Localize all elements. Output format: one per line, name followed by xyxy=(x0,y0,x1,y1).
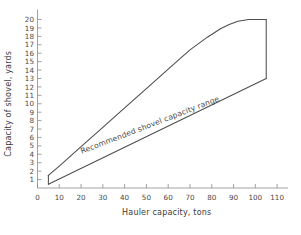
y-tick-label-17: 17 xyxy=(25,40,34,49)
y-tick-label-18: 18 xyxy=(25,32,35,41)
y-tick-label-4: 4 xyxy=(29,150,34,159)
x-tick-label-50: 50 xyxy=(142,193,152,202)
y-axis-title: Capacity of shovel, yards xyxy=(4,51,13,157)
y-tick-label-19: 19 xyxy=(25,24,35,33)
x-tick-label-0: 0 xyxy=(35,193,40,202)
y-tick-label-14: 14 xyxy=(25,66,35,75)
y-tick-label-15: 15 xyxy=(25,57,34,66)
x-tick-label-80: 80 xyxy=(207,193,217,202)
y-axis-tick-labels: 1234567891011121314151617181920 xyxy=(25,15,35,184)
chart-annotations: Recommended shovel capacity range xyxy=(79,94,221,156)
y-tick-label-5: 5 xyxy=(29,141,34,150)
chart-container: 1234567891011121314151617181920 01020304… xyxy=(0,0,301,235)
x-axis-ticks xyxy=(38,184,278,188)
curve-lower-bound xyxy=(48,78,266,184)
y-tick-label-3: 3 xyxy=(29,158,34,167)
y-tick-label-9: 9 xyxy=(29,108,34,117)
y-tick-label-6: 6 xyxy=(29,133,34,142)
annotation-recommended-range: Recommended shovel capacity range xyxy=(79,94,221,156)
x-axis-tick-labels: 0102030405060708090100110 xyxy=(35,193,284,202)
y-tick-label-12: 12 xyxy=(25,83,34,92)
y-tick-label-8: 8 xyxy=(29,116,34,125)
shovel-capacity-chart: 1234567891011121314151617181920 01020304… xyxy=(0,0,301,235)
y-tick-label-13: 13 xyxy=(25,74,34,83)
data-curves xyxy=(48,20,266,185)
y-tick-label-11: 11 xyxy=(25,91,34,100)
y-tick-label-1: 1 xyxy=(29,175,34,184)
y-tick-label-20: 20 xyxy=(25,15,35,24)
x-axis-title: Hauler capacity, tons xyxy=(122,208,211,217)
x-tick-label-10: 10 xyxy=(55,193,65,202)
y-tick-label-7: 7 xyxy=(29,125,34,134)
y-tick-label-2: 2 xyxy=(29,167,34,176)
x-tick-label-110: 110 xyxy=(270,193,284,202)
x-tick-label-70: 70 xyxy=(185,193,195,202)
x-tick-label-40: 40 xyxy=(120,193,130,202)
y-tick-label-16: 16 xyxy=(25,49,35,58)
y-axis-ticks xyxy=(38,20,42,180)
x-tick-label-60: 60 xyxy=(164,193,174,202)
x-tick-label-90: 90 xyxy=(229,193,239,202)
x-tick-label-30: 30 xyxy=(98,193,108,202)
y-tick-label-10: 10 xyxy=(25,99,35,108)
x-tick-label-20: 20 xyxy=(76,193,86,202)
x-tick-label-100: 100 xyxy=(248,193,262,202)
